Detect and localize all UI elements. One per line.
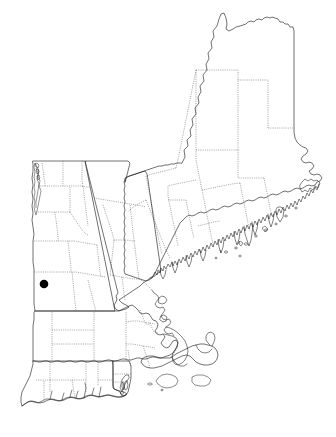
maine-county-penobscot-s bbox=[238, 150, 264, 178]
maine-county-franklin-oxford bbox=[146, 168, 176, 176]
maine-island-8 bbox=[295, 207, 298, 209]
maine-coast-detail bbox=[150, 184, 319, 278]
maine-island-matinicus bbox=[239, 255, 241, 257]
vt-county-bennington-e bbox=[72, 272, 76, 311]
ma-county-norfolk-s bbox=[126, 344, 155, 348]
vt-county-caledonia-w bbox=[83, 186, 88, 226]
maine-county-hancock-w bbox=[240, 183, 250, 231]
maine-island-3 bbox=[244, 243, 248, 245]
maine-county-aroostook-e bbox=[238, 80, 268, 128]
ma-county-barnstable-w bbox=[172, 346, 178, 357]
ma-county-essex-w bbox=[140, 310, 150, 324]
elizabeth-islands bbox=[148, 383, 153, 385]
ct-shore-notch-3 bbox=[76, 391, 78, 398]
vt-county-orleans-e bbox=[82, 161, 83, 186]
maine-county-kennebec-e bbox=[202, 190, 214, 248]
distribution-map: New England Distribution Map bbox=[0, 0, 336, 437]
housatonic-mouth bbox=[50, 391, 52, 399]
nh-county-grafton-e bbox=[103, 205, 114, 240]
ct-county-middlesex-w bbox=[72, 380, 75, 397]
new-hampshire-outline bbox=[85, 161, 161, 311]
vt-county-grandisle-e bbox=[42, 163, 45, 186]
cape-cod-hook bbox=[206, 332, 215, 346]
maine-county-somerset-e bbox=[196, 70, 202, 190]
massachusetts-outline bbox=[33, 305, 178, 362]
maine-county-oxford-e bbox=[146, 176, 162, 254]
massachusetts-boston-harbor bbox=[160, 315, 167, 322]
map-canvas bbox=[0, 0, 336, 437]
ma-county-plymouth-w bbox=[143, 346, 150, 368]
vt-county-orange-s bbox=[74, 241, 97, 245]
maine-island-offshore-1 bbox=[238, 241, 243, 246]
ma-county-middlesex-n bbox=[126, 321, 155, 324]
connecticut-shoreline bbox=[22, 395, 126, 406]
vt-county-washington-s bbox=[70, 212, 88, 235]
connecticut-outline bbox=[21, 361, 127, 406]
nh-county-strafford-w bbox=[135, 248, 139, 279]
thames-river-mouth bbox=[99, 387, 101, 397]
maine-bay-detail-e bbox=[218, 240, 224, 253]
maine-county-sagadahoc bbox=[186, 200, 194, 238]
maine-county-aroostook-w bbox=[196, 70, 238, 150]
maine-island-monhegan bbox=[215, 257, 217, 259]
massachusetts-cape-ann bbox=[159, 296, 167, 304]
lake-champlain bbox=[34, 163, 41, 215]
state-maine bbox=[124, 13, 322, 281]
maine-island-2 bbox=[235, 247, 238, 249]
maine-island-4 bbox=[255, 235, 258, 237]
maine-county-waldo-n bbox=[202, 183, 240, 190]
ct-shore-notch-4 bbox=[92, 388, 94, 395]
cape-cod-buzzards-bay bbox=[172, 357, 187, 366]
ct-shore-notch-2 bbox=[70, 390, 72, 397]
connecticut-river-mouth bbox=[84, 383, 86, 398]
no-mans-land bbox=[161, 389, 163, 391]
state-massachusetts bbox=[33, 290, 218, 394]
maine-island-6 bbox=[275, 223, 277, 225]
marthas-vineyard bbox=[156, 374, 178, 388]
maine-bay-detail-f bbox=[234, 232, 240, 245]
vt-county-windham-w bbox=[88, 280, 96, 311]
vt-county-rutland-e bbox=[68, 241, 71, 272]
maine-offshore-mark-2 bbox=[220, 250, 221, 253]
maine-island-1 bbox=[224, 251, 227, 253]
massachusetts-north-shore bbox=[152, 290, 174, 336]
maine-county-kennebec-n bbox=[168, 180, 196, 186]
nh-county-carroll-w bbox=[130, 205, 135, 248]
occurrence-dot[interactable] bbox=[40, 280, 49, 289]
state-connecticut bbox=[21, 361, 127, 406]
vt-county-rutland-s bbox=[34, 272, 105, 277]
maine-bay-detail-c bbox=[186, 256, 192, 267]
maine-island-7 bbox=[285, 215, 288, 217]
cape-cod-inner-bay bbox=[196, 345, 212, 353]
lake-champlain-islands bbox=[35, 163, 39, 168]
vt-county-franklin-s bbox=[38, 186, 90, 187]
maine-county-washington-w bbox=[264, 178, 272, 216]
state-new-hampshire bbox=[85, 161, 161, 311]
vt-county-windsor-e bbox=[97, 245, 101, 277]
vt-county-addison-e bbox=[55, 212, 58, 241]
maine-outline bbox=[124, 13, 322, 281]
state-rhode-island bbox=[113, 361, 131, 396]
maine-bay-detail-b bbox=[172, 262, 178, 273]
nantucket bbox=[192, 375, 211, 386]
maine-county-somerset-w bbox=[176, 70, 196, 168]
ma-county-bristol-e bbox=[128, 350, 131, 366]
vermont-outline bbox=[32, 161, 115, 311]
occurrence-marker-layer bbox=[40, 280, 49, 289]
maine-bay-detail-d bbox=[200, 250, 206, 261]
nh-county-coos-s bbox=[94, 198, 146, 207]
state-vermont bbox=[32, 161, 115, 311]
